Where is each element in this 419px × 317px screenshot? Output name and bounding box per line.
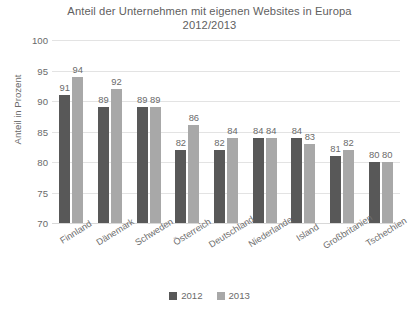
bar-group: 8989: [129, 40, 168, 223]
y-tick-label-85: 85: [14, 126, 48, 137]
x-tick-Tschechien: Tschechien: [361, 223, 400, 283]
y-tick-label-100: 100: [14, 35, 48, 46]
bar-value-label: 84: [227, 125, 237, 136]
bar-2013-Finnland[interactable]: 94: [72, 77, 83, 223]
x-tick-label: Island: [295, 222, 321, 243]
chart-legend: 20122013: [0, 290, 419, 301]
legend-label: 2013: [229, 290, 250, 301]
bar-value-label: 83: [305, 131, 315, 142]
bar-value-label: 92: [111, 76, 121, 87]
y-axis-ticks: 100959085807570: [8, 40, 48, 223]
legend-swatch-icon: [169, 292, 177, 300]
x-tick-Island: Island: [284, 223, 323, 283]
bar-value-label: 82: [343, 137, 353, 148]
bar-2012-Deutschland[interactable]: 82: [214, 150, 225, 223]
bar-2012-Dänemark[interactable]: 89: [98, 107, 109, 223]
bar-value-label: 91: [60, 82, 70, 93]
chart-title: Anteil der Unternehmen mit eigenen Websi…: [0, 4, 419, 32]
y-tick-label-75: 75: [14, 187, 48, 198]
legend-label: 2012: [181, 290, 202, 301]
bar-value-label: 89: [150, 94, 160, 105]
bar-value-label: 82: [214, 137, 224, 148]
x-tick-Niederlande: Niederlande: [245, 223, 284, 283]
bar-2013-Dänemark[interactable]: 92: [111, 89, 122, 223]
bar-group: 8182: [323, 40, 362, 223]
bar-groups: 919489928989828682848484848381828080: [52, 40, 400, 223]
y-tick-label-90: 90: [14, 96, 48, 107]
bar-value-label: 84: [292, 125, 302, 136]
legend-swatch-icon: [217, 292, 225, 300]
bar-2013-Tschechien[interactable]: 80: [382, 162, 393, 223]
x-axis-category-labels: FinnlandDänemarkSchwedenÖsterreichDeutsc…: [52, 223, 400, 283]
bar-chart: Anteil der Unternehmen mit eigenen Websi…: [0, 0, 419, 317]
bar-2012-Tschechien[interactable]: 80: [369, 162, 380, 223]
bar-2013-Niederlande[interactable]: 84: [266, 138, 277, 223]
bar-group: 9194: [52, 40, 91, 223]
bar-2012-Finnland[interactable]: 91: [59, 95, 70, 223]
bar-value-label: 89: [137, 94, 147, 105]
bar-2012-Großbritanien[interactable]: 81: [330, 156, 341, 223]
chart-title-line-2: 2012/2013: [0, 18, 419, 32]
y-tick-label-80: 80: [14, 157, 48, 168]
x-tick-Österreich: Österreich: [168, 223, 207, 283]
x-tick-label: Finnland: [59, 219, 94, 246]
bar-value-label: 89: [98, 94, 108, 105]
legend-item-2012[interactable]: 2012: [169, 290, 202, 301]
x-tick-Deutschland: Deutschland: [207, 223, 246, 283]
x-tick-Großbritanien: Großbritanien: [323, 223, 362, 283]
legend-item-2013[interactable]: 2013: [217, 290, 250, 301]
bar-2012-Österreich[interactable]: 82: [175, 150, 186, 223]
bar-2013-Schweden[interactable]: 89: [150, 107, 161, 223]
bar-2013-Island[interactable]: 83: [304, 144, 315, 223]
bar-2012-Island[interactable]: 84: [291, 138, 302, 223]
bar-value-label: 86: [189, 112, 199, 123]
bar-value-label: 81: [330, 143, 340, 154]
y-tick-label-70: 70: [14, 218, 48, 229]
bar-value-label: 82: [176, 137, 186, 148]
bar-2013-Deutschland[interactable]: 84: [227, 138, 238, 223]
x-tick-Schweden: Schweden: [129, 223, 168, 283]
y-tick-label-95: 95: [14, 65, 48, 76]
bar-group: 8484: [245, 40, 284, 223]
bar-2013-Österreich[interactable]: 86: [188, 125, 199, 223]
bar-group: 8284: [207, 40, 246, 223]
bar-group: 8080: [361, 40, 400, 223]
bar-2012-Schweden[interactable]: 89: [137, 107, 148, 223]
bar-value-label: 94: [73, 64, 83, 75]
bar-value-label: 80: [369, 149, 379, 160]
x-tick-Dänemark: Dänemark: [91, 223, 130, 283]
bar-group: 8992: [91, 40, 130, 223]
x-tick-Finnland: Finnland: [52, 223, 91, 283]
bar-group: 8483: [284, 40, 323, 223]
bar-value-label: 80: [382, 149, 392, 160]
chart-title-line-1: Anteil der Unternehmen mit eigenen Websi…: [67, 5, 351, 17]
bar-value-label: 84: [253, 125, 263, 136]
bar-value-label: 84: [266, 125, 276, 136]
bar-2012-Niederlande[interactable]: 84: [253, 138, 264, 223]
bar-group: 8286: [168, 40, 207, 223]
bar-2013-Großbritanien[interactable]: 82: [343, 150, 354, 223]
